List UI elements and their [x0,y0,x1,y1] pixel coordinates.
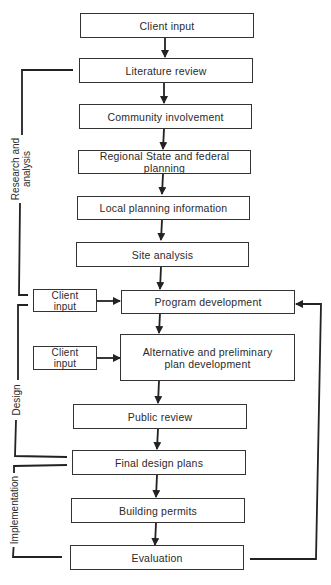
side-input-label-line1: Client [52,347,79,358]
side-input-label-line2: input [54,301,77,312]
phase-label-line1: Research and [10,135,21,203]
step-label: Local planning information [100,202,228,214]
step-label: Community involvement [107,111,223,123]
phase-label-line2: analysis [21,135,32,203]
flow-step-building-permits: Building permits [71,498,245,523]
step-label: Client input [140,20,195,32]
flow-step-client-input: Client input [80,13,254,38]
step-label: Program development [154,296,261,308]
step-label: Building permits [119,505,197,517]
step-label-line1: Alternative and preliminary [143,346,273,358]
step-label-line2: plan development [164,358,250,370]
flow-step-local-planning: Local planning information [77,196,250,220]
step-label: Regional State and federal planning [79,150,250,174]
phase-label-implementation: Implementation [9,473,21,547]
flow-step-site-analysis: Site analysis [76,242,249,267]
flow-step-final-design: Final design plans [72,450,246,475]
flow-step-alternative-plan: Alternative and preliminary plan develop… [120,334,295,381]
step-label: Literature review [125,65,206,77]
side-input-label-line2: input [54,358,77,369]
phase-label-research: Research and analysis [10,135,34,203]
flow-step-program-development: Program development [121,290,295,314]
flow-step-evaluation: Evaluation [70,545,244,570]
flow-step-community-involvement: Community involvement [79,104,252,129]
step-label: Evaluation [131,552,182,564]
step-label: Public review [128,411,192,423]
side-input-client-1: Client input [33,289,97,312]
side-input-client-2: Client input [33,346,97,370]
flow-step-literature-review: Literature review [79,58,253,83]
flow-step-public-review: Public review [73,404,247,429]
side-input-label-line1: Client [52,290,79,301]
flow-step-regional-planning: Regional State and federal planning [78,150,251,174]
step-label: Final design plans [115,457,203,469]
step-label: Site analysis [132,249,194,261]
phase-label-design: Design [11,381,23,419]
